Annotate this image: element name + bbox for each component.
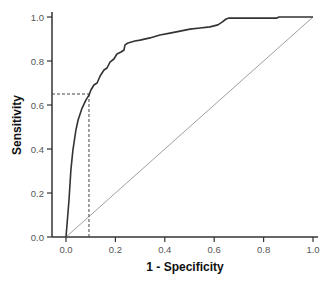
y-tick-label: 0.4 [31,144,44,155]
x-axis: 0.00.20.40.60.81.0 [52,237,320,255]
x-tick-label: 0.4 [158,244,171,255]
reference-line [66,17,313,237]
operating-point-crosshair [52,94,89,237]
y-tick-label: 1.0 [31,12,44,23]
y-tick-label: 0.0 [31,232,44,243]
x-tick-label: 0.8 [257,244,270,255]
y-axis-title: Sensitivity [10,95,24,155]
x-tick-label: 0.2 [109,244,122,255]
y-tick-label: 0.8 [31,56,44,67]
x-tick-label: 1.0 [306,244,319,255]
x-tick-label: 0.0 [59,244,72,255]
y-tick-label: 0.6 [31,100,44,111]
roc-chart: 0.00.20.40.60.81.0 0.00.20.40.60.81.0 1 … [0,0,331,283]
y-tick-label: 0.2 [31,188,44,199]
y-axis: 0.00.20.40.60.81.0 [31,12,52,243]
x-axis-title: 1 - Specificity [146,260,224,274]
x-tick-label: 0.6 [208,244,221,255]
